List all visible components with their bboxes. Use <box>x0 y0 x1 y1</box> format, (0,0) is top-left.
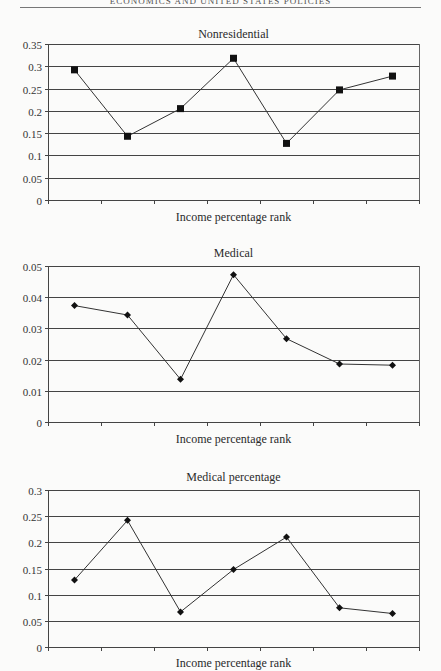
data-point-diamond <box>389 362 396 369</box>
y-tick-label: 0.04 <box>23 292 43 304</box>
y-tick-label: 0.05 <box>23 616 43 628</box>
y-tick-label: 0.03 <box>23 323 43 335</box>
chart-title: Nonresidential <box>198 27 269 41</box>
data-point-diamond <box>389 610 396 617</box>
data-point-diamond <box>71 302 78 309</box>
data-point-square <box>389 73 396 80</box>
data-point-square <box>230 55 237 62</box>
y-tick-label: 0.2 <box>28 537 42 549</box>
chart-1: Nonresidential00.050.10.150.20.250.30.35… <box>23 27 420 224</box>
series-line <box>75 275 393 380</box>
x-axis-label: Income percentage rank <box>176 656 291 670</box>
data-point-square <box>283 140 290 147</box>
data-point-diamond <box>336 360 343 367</box>
series-line <box>75 58 393 143</box>
x-axis-label: Income percentage rank <box>176 432 291 446</box>
chart-2: Medical00.010.020.030.040.05Income perce… <box>23 246 420 446</box>
data-point-square <box>177 105 184 112</box>
charts-canvas: Nonresidential00.050.10.150.20.250.30.35… <box>0 0 441 671</box>
y-tick-label: 0 <box>37 195 43 207</box>
x-axis-label: Income percentage rank <box>176 210 291 224</box>
y-tick-label: 0.1 <box>28 590 42 602</box>
y-tick-label: 0.25 <box>23 84 43 96</box>
y-tick-label: 0.05 <box>23 173 43 185</box>
y-tick-label: 0.15 <box>23 564 43 576</box>
y-tick-label: 0.1 <box>28 150 42 162</box>
y-tick-label: 0.15 <box>23 128 43 140</box>
y-tick-label: 0 <box>37 417 43 429</box>
y-tick-label: 0 <box>37 642 43 654</box>
y-tick-label: 0.01 <box>23 386 42 398</box>
data-point-square <box>336 86 343 93</box>
y-tick-label: 0.2 <box>28 106 42 118</box>
chart-title: Medical <box>214 246 254 260</box>
y-tick-label: 0.02 <box>23 355 42 367</box>
y-tick-label: 0.35 <box>23 39 43 51</box>
chart-3: Medical percentage00.050.10.150.20.250.3… <box>23 470 420 670</box>
y-tick-label: 0.05 <box>23 261 43 273</box>
y-tick-label: 0.3 <box>28 485 42 497</box>
y-tick-label: 0.3 <box>28 61 42 73</box>
y-tick-label: 0.25 <box>23 511 43 523</box>
data-point-square <box>71 66 78 73</box>
data-point-square <box>124 133 131 140</box>
chart-title: Medical percentage <box>186 470 280 484</box>
